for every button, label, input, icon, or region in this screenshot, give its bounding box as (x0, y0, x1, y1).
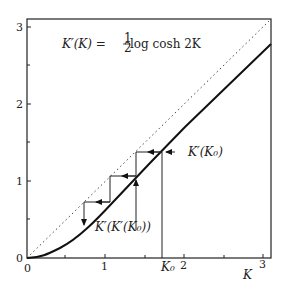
x-tick-label-0: 0 (24, 262, 31, 275)
k-prime-k-prime-k0-label: K′(K′(K₀)) (94, 220, 151, 234)
x-ticks (65, 254, 263, 258)
y-tick-label-2: 2 (16, 98, 23, 111)
k-prime-k0-label: K′(K₀) (187, 145, 223, 159)
x-tick-label-1: 1 (101, 260, 108, 273)
x-tick-label-2: 2 (180, 259, 187, 272)
equation-annotation: K′(K) = (61, 37, 106, 51)
y-tick-label-1: 1 (16, 175, 23, 188)
x-axis-label: K (242, 268, 253, 282)
y-tick-label-0: 0 (16, 252, 23, 265)
x-tick-label-3: 3 (259, 258, 266, 271)
k0-label: K₀ (160, 260, 175, 274)
equation-rhs: log cosh 2K (130, 37, 202, 51)
rg-flow-chart: 0 1 2 3 0 1 2 3 K K₀ K′(K) = 1 2 log cos… (0, 0, 286, 297)
y-tick-label-3: 3 (16, 21, 23, 34)
